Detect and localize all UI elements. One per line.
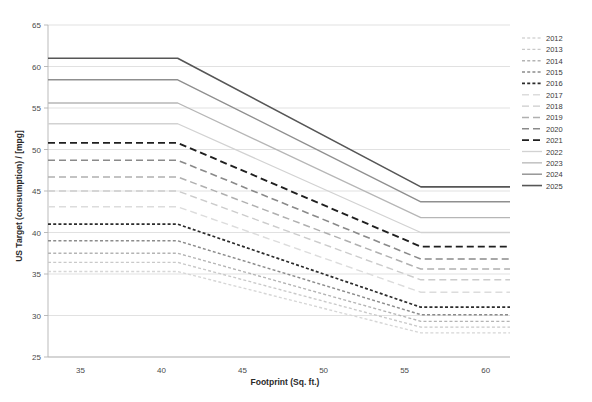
series-line-2025 (48, 58, 510, 187)
x-axis-ticks: 354045505560 (76, 366, 491, 375)
legend-label-2016[interactable]: 2016 (546, 79, 563, 88)
series-line-2022 (48, 124, 510, 233)
y-tick-label-40: 40 (32, 229, 41, 238)
x-axis-label: Footprint (Sq. ft.) (251, 377, 320, 387)
legend-label-2013[interactable]: 2013 (546, 45, 563, 54)
y-tick-label-55: 55 (32, 104, 41, 113)
y-tick-label-25: 25 (32, 353, 41, 362)
legend-label-2020[interactable]: 2020 (546, 125, 563, 134)
x-tick-label-45: 45 (238, 366, 247, 375)
legend-label-2022[interactable]: 2022 (546, 148, 563, 157)
legend: 2012201320142015201620172018201920202021… (522, 34, 563, 191)
series-line-2012 (48, 272, 510, 333)
legend-label-2019[interactable]: 2019 (546, 113, 563, 122)
series-line-2024 (48, 80, 510, 202)
y-tick-label-30: 30 (32, 312, 41, 321)
x-tick-label-60: 60 (481, 366, 490, 375)
legend-label-2017[interactable]: 2017 (546, 91, 563, 100)
y-tick-label-50: 50 (32, 146, 41, 155)
series-line-2016 (48, 224, 510, 307)
y-axis-ticks: 253035404550556065 (32, 21, 48, 362)
series-line-2015 (48, 241, 510, 315)
legend-label-2015[interactable]: 2015 (546, 68, 563, 77)
legend-label-2018[interactable]: 2018 (546, 102, 563, 111)
legend-label-2023[interactable]: 2023 (546, 159, 563, 168)
y-axis-label: US Target (consumption) / [mpg] (14, 130, 24, 262)
legend-label-2021[interactable]: 2021 (546, 136, 563, 145)
legend-label-2012[interactable]: 2012 (546, 34, 563, 43)
y-tick-label-60: 60 (32, 63, 41, 72)
y-tick-label-45: 45 (32, 187, 41, 196)
legend-label-2024[interactable]: 2024 (546, 170, 563, 179)
series-group (48, 58, 510, 333)
y-tick-label-35: 35 (32, 270, 41, 279)
x-tick-label-55: 55 (400, 366, 409, 375)
x-tick-label-50: 50 (319, 366, 328, 375)
x-tick-label-35: 35 (76, 366, 85, 375)
series-line-2018 (48, 191, 510, 280)
x-tick-label-40: 40 (157, 366, 166, 375)
legend-label-2014[interactable]: 2014 (546, 57, 563, 66)
legend-label-2025[interactable]: 2025 (546, 182, 563, 191)
y-tick-label-65: 65 (32, 21, 41, 30)
chart-container: 253035404550556065 354045505560 20122013… (0, 0, 592, 402)
line-chart: 253035404550556065 354045505560 20122013… (0, 0, 592, 402)
series-line-2021 (48, 143, 510, 247)
series-line-2014 (48, 253, 510, 321)
series-line-2020 (48, 160, 510, 259)
